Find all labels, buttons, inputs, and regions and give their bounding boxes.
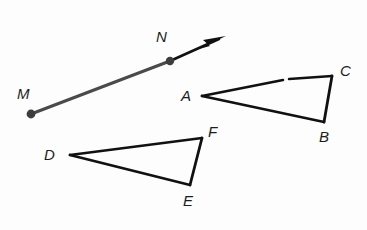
label-vertex-F: F bbox=[208, 124, 217, 139]
segment-DF bbox=[70, 138, 202, 155]
segment-ED bbox=[70, 155, 190, 185]
ray-MN-shaft bbox=[31, 61, 170, 114]
label-vertex-B: B bbox=[319, 129, 329, 144]
segment-AC-part2 bbox=[289, 76, 332, 79]
label-vertex-C: C bbox=[340, 63, 351, 78]
ray-arrowhead-icon bbox=[199, 36, 226, 49]
segment-FE bbox=[190, 138, 202, 185]
label-vertex-E: E bbox=[183, 193, 193, 208]
segment-BA bbox=[202, 96, 324, 122]
diagram-canvas: M N A B C D E F bbox=[0, 0, 367, 230]
label-point-N: N bbox=[156, 29, 167, 44]
label-vertex-D: D bbox=[44, 147, 55, 162]
point-M-dot bbox=[27, 110, 36, 119]
segment-CB bbox=[324, 76, 332, 122]
label-point-M: M bbox=[17, 86, 30, 101]
label-vertex-A: A bbox=[181, 88, 191, 103]
point-N-dot bbox=[166, 57, 174, 65]
segment-AC-part1 bbox=[202, 80, 283, 96]
